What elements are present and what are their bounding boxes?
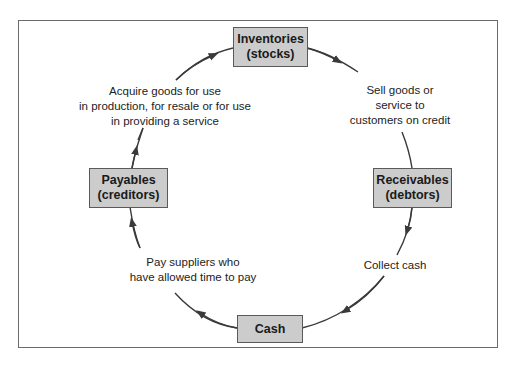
label-pay-suppliers: Pay suppliers who have allowed time to p…	[118, 255, 268, 285]
node-payables: Payables (creditors)	[89, 168, 168, 208]
label-acquire-goods: Acquire goods for use in production, for…	[70, 84, 260, 129]
label-collect-cash: Collect cash	[350, 258, 440, 273]
node-cash: Cash	[237, 315, 303, 343]
node-inventories: Inventories (stocks)	[233, 27, 308, 67]
label-sell-goods: Sell goods or service to customers on cr…	[330, 83, 470, 128]
node-receivables: Receivables (debtors)	[373, 168, 452, 208]
